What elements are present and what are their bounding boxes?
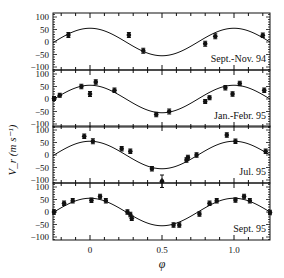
- data-point: [98, 194, 103, 199]
- y-tick-label: 0: [45, 37, 50, 47]
- fit-curve: [53, 141, 270, 169]
- y-tick-label: 0: [45, 94, 50, 104]
- y-tick-label: 50: [40, 82, 50, 92]
- y-tick-label: −50: [35, 50, 50, 60]
- data-point: [79, 84, 84, 89]
- data-point: [171, 223, 176, 228]
- data-point: [52, 96, 57, 101]
- data-point: [261, 33, 266, 38]
- data-point: [207, 95, 212, 100]
- panels-group: 100500−50−100Sept.-Nov. 94100500−50−100J…: [30, 12, 272, 255]
- x-tick-label: 1.0: [228, 245, 240, 255]
- data-point: [203, 99, 208, 104]
- data-point: [233, 198, 238, 203]
- data-point: [93, 80, 98, 85]
- data-point: [70, 198, 75, 203]
- panel-label: Sept.-Nov. 94: [211, 53, 266, 64]
- y-tick-label: 50: [40, 138, 50, 148]
- y-tick-label: 0: [45, 150, 50, 160]
- data-point: [89, 198, 94, 203]
- panel-label: Jul. 95: [239, 166, 266, 177]
- panel-2: 100500−50−100Jan.-Febr. 95: [30, 69, 270, 129]
- y-tick-label: 100: [36, 182, 50, 192]
- fit-curve: [53, 28, 270, 56]
- fit-curve: [53, 85, 270, 113]
- data-point: [263, 149, 268, 154]
- panel-label: Sept. 95: [233, 223, 266, 234]
- y-tick-label: 50: [40, 195, 50, 205]
- y-axis-label: V_r (m s⁻¹): [6, 124, 19, 175]
- y-tick-label: 0: [45, 207, 50, 217]
- data-point: [62, 201, 67, 206]
- data-point: [248, 198, 253, 203]
- data-point: [150, 166, 155, 171]
- data-point: [127, 33, 132, 38]
- y-tick-label: −50: [35, 163, 50, 173]
- data-point: [230, 92, 235, 97]
- y-tick-label: 100: [36, 12, 50, 22]
- phase-plot: V_r (m s⁻¹) φ 100500−50−100Sept.-Nov. 94…: [0, 0, 284, 278]
- y-tick-label: 100: [36, 125, 50, 135]
- data-point: [225, 133, 230, 138]
- data-point: [88, 92, 93, 97]
- panel-3: 100500−50−100Jul. 95: [30, 125, 270, 188]
- data-point: [112, 88, 117, 93]
- data-point: [213, 34, 218, 39]
- data-point: [82, 134, 87, 139]
- data-point: [104, 198, 109, 203]
- radial-velocity-figure: V_r (m s⁻¹) φ 100500−50−100Sept.-Nov. 94…: [0, 0, 284, 278]
- data-point: [129, 216, 134, 221]
- data-point: [154, 112, 159, 117]
- data-point: [223, 85, 228, 90]
- data-point: [167, 109, 172, 114]
- data-point: [214, 198, 219, 203]
- data-point: [177, 223, 182, 228]
- data-point: [203, 41, 208, 46]
- data-point: [57, 93, 62, 98]
- data-point: [262, 88, 267, 93]
- y-tick-label: 50: [40, 25, 50, 35]
- panel-label: Jan.-Febr. 95: [214, 110, 266, 121]
- data-point: [119, 146, 124, 151]
- x-axis-label: φ: [159, 257, 166, 271]
- data-point: [197, 212, 202, 217]
- data-point: [52, 210, 57, 215]
- data-point: [194, 153, 199, 158]
- data-point: [242, 194, 247, 199]
- y-tick-label: −50: [35, 107, 50, 117]
- panel-4: 100500−50−100Sept. 95: [30, 182, 272, 242]
- y-tick-label: 100: [36, 69, 50, 79]
- fit-curve: [53, 198, 270, 226]
- data-point: [128, 149, 133, 154]
- x-tick-label: 0.5: [156, 245, 168, 255]
- data-point: [233, 139, 238, 144]
- x-tick-label: 0: [88, 245, 93, 255]
- data-point: [207, 201, 212, 206]
- panel-1: 100500−50−100Sept.-Nov. 94: [30, 12, 270, 72]
- data-point: [268, 210, 273, 215]
- data-point: [186, 155, 191, 160]
- data-point: [91, 139, 96, 144]
- data-point: [237, 81, 242, 86]
- y-tick-label: −100: [30, 232, 49, 242]
- y-tick-label: −50: [35, 220, 50, 230]
